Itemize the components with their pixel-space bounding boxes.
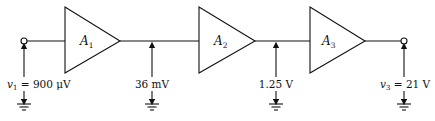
svg-text:A3: A3 bbox=[321, 34, 336, 50]
ground-icon bbox=[17, 104, 31, 110]
ground-icon bbox=[397, 104, 411, 110]
amplifier-chain-diagram: A1 A2 A3 v1 = 900 μV 36 mV 1.25 V v3 = bbox=[0, 0, 435, 121]
output-terminal bbox=[401, 38, 407, 44]
amplifier-a2: A2 bbox=[199, 7, 255, 73]
amplifier-a3: A3 bbox=[310, 7, 365, 73]
ground-icon bbox=[269, 104, 283, 110]
ground-icon bbox=[145, 104, 159, 110]
svg-text:A2: A2 bbox=[213, 34, 228, 50]
svg-text:A1: A1 bbox=[79, 34, 93, 50]
amplifier-a1: A1 bbox=[65, 7, 120, 73]
node23-voltage-label: 1.25 V bbox=[259, 78, 294, 90]
output-voltage-label: v3 = 21 V bbox=[380, 78, 431, 92]
input-voltage-label: v1 = 900 μV bbox=[7, 78, 71, 92]
node12-voltage-label: 36 mV bbox=[135, 78, 170, 90]
input-terminal bbox=[21, 38, 27, 44]
